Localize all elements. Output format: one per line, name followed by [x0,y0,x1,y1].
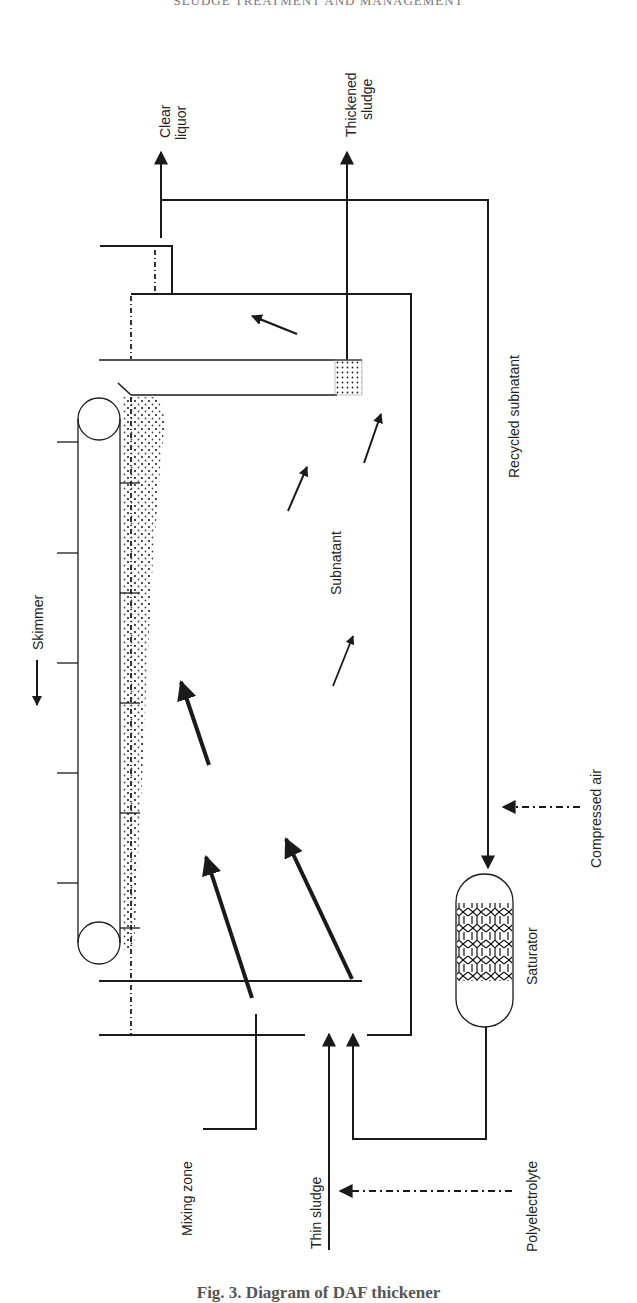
label-skimmer: Skimmer [30,594,46,650]
diagram-lines [99,152,580,1250]
label-thin-sludge: Thin sludge [308,1176,324,1249]
label-clear-liquor-1: Clear [157,104,173,138]
sludge-float-layer [123,397,165,950]
label-thickened-sludge-1: Thickened [343,72,359,137]
figure-caption: Fig. 3. Diagram of DAF thickener [0,1283,637,1303]
label-saturator: Saturator [524,927,540,985]
label-polyelectrolyte: Polyelectrolyte [524,1161,540,1252]
flow-arrow [206,857,252,998]
saturator-packing [457,903,512,981]
saturator-vessel [456,874,513,1027]
skimmer-pulley-top [78,398,120,440]
saturator-outlet-pipe [353,1027,486,1139]
label-mixing-zone: Mixing zone [179,1161,195,1236]
mixing-zone-pointer [203,1014,256,1129]
flow-arrow [333,636,353,686]
flow-arrow [364,414,381,463]
beach-lip [118,383,131,395]
label-subnatant: Subnatant [328,531,344,595]
sludge-hopper [335,360,362,395]
flow-arrow [252,316,297,334]
skimmer-pulley-bottom [78,922,120,964]
outlet-weir [100,246,172,294]
tank-wall [131,294,411,1035]
recycled-subnatant-pipe [161,200,488,868]
label-compressed-air: Compressed air [588,769,604,868]
flow-arrows [181,316,381,998]
label-clear-liquor-2: liquor [173,105,189,140]
label-recycled-subnatant: Recycled subnatant [506,355,522,478]
label-thickened-sludge-2: sludge [359,79,375,120]
flow-arrow [181,682,209,765]
flow-arrow [286,839,352,979]
flow-arrow [288,467,307,511]
